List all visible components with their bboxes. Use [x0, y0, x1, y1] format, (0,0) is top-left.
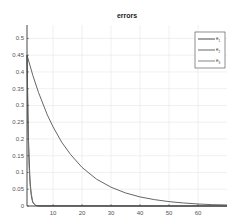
y-tick-label: 0.15	[12, 153, 24, 159]
errors-chart: errors 102030405060 00.050.10.150.20.250…	[0, 0, 236, 224]
x-tick-label: 40	[137, 210, 144, 216]
y-tick-label: 0.5	[16, 35, 25, 41]
legend: e1e2e3	[195, 32, 225, 68]
x-tick-label: 50	[166, 210, 173, 216]
y-tick-label: 0.3	[16, 102, 25, 108]
y-tick-label: 0.4	[16, 69, 25, 75]
x-tick-label: 20	[79, 210, 86, 216]
y-tick-label: 0.35	[12, 86, 24, 92]
chart-title: errors	[117, 12, 137, 19]
x-tick-label: 10	[50, 210, 57, 216]
x-tick-label: 30	[108, 210, 115, 216]
y-tick-label: 0.45	[12, 52, 24, 58]
y-tick-label: 0.05	[12, 186, 24, 192]
y-tick-label: 0.1	[16, 169, 25, 175]
x-tick-label: 60	[195, 210, 202, 216]
y-tick-label: 0.2	[16, 136, 25, 142]
y-tick-label: 0.25	[12, 119, 24, 125]
